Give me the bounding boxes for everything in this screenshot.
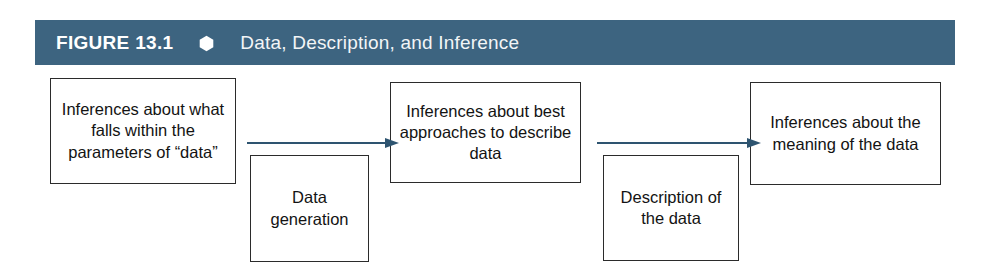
flow-box-inferences-approaches: Inferences about best approaches to desc… [390, 82, 581, 183]
flow-box-label: Inferences about what falls within the p… [56, 99, 230, 162]
hexagon-icon [198, 35, 215, 52]
flow-box-inferences-meaning: Inferences about the meaning of the data [750, 82, 941, 185]
flow-box-label: Description of the data [609, 187, 733, 229]
figure-title: Data, Description, and Inference [240, 32, 519, 54]
figure-header-bar: FIGURE 13.1 Data, Description, and Infer… [35, 20, 955, 65]
flow-box-label: Inferences about best approaches to desc… [396, 101, 575, 164]
flow-box-label: Data generation [256, 187, 363, 229]
flow-arrow-right-one [247, 135, 399, 151]
flow-box-inferences-data: Inferences about what falls within the p… [50, 78, 236, 184]
flow-box-data-generation: Data generation [250, 155, 369, 262]
flow-box-label: Inferences about the meaning of the data [756, 112, 935, 154]
flow-arrow-right-two [597, 135, 761, 151]
figure-container: FIGURE 13.1 Data, Description, and Infer… [0, 0, 994, 277]
flow-box-description-data: Description of the data [603, 155, 739, 261]
figure-number-label: FIGURE 13.1 [56, 32, 173, 54]
